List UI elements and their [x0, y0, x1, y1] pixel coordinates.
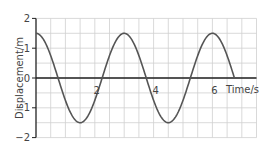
x-tick-label: 4 [152, 85, 158, 96]
y-tick-label: 2 [24, 13, 30, 24]
x-tick-label: 2 [94, 85, 100, 96]
y-axis-label: Displacement/m [14, 37, 25, 119]
x-axis-label: Time/s [225, 84, 259, 95]
x-tick-label: 6 [211, 85, 217, 96]
y-tick-label: −2 [15, 132, 30, 143]
x-tick-labels: 246 [94, 85, 218, 96]
displacement-time-chart: 210−1−2 246 Displacement/m Time/s [0, 0, 263, 148]
